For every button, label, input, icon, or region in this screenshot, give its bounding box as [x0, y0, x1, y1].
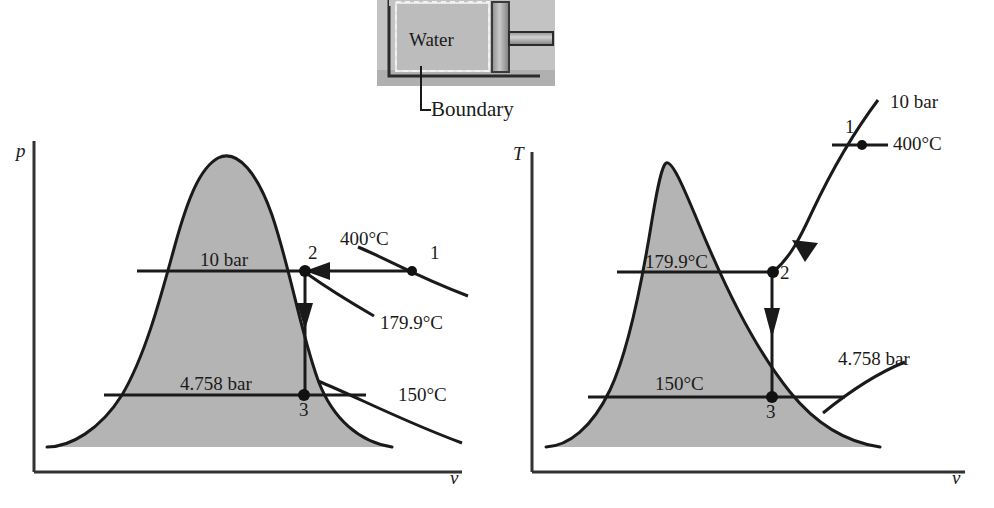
Tv-state-point-1	[857, 140, 867, 150]
Tv-isobar-10bar	[773, 100, 878, 272]
Tv-state-label-1: 1	[845, 117, 855, 136]
thermodynamic-process-figure: Water Boundary p	[0, 0, 994, 508]
Tv-annotation-isotherm-150C: 150°C	[655, 374, 704, 393]
Tv-vapor-dome-fill	[546, 163, 880, 447]
Tv-diagram	[0, 0, 994, 508]
Tv-x-axis-label: v	[952, 468, 960, 487]
Tv-state-label-3: 3	[766, 402, 776, 421]
Tv-annotation-temperature-400C: 400°C	[893, 134, 942, 153]
Tv-state-label-2: 2	[780, 263, 790, 282]
Tv-annotation-isotherm-179-9C: 179.9°C	[645, 252, 708, 271]
Tv-annotation-pressure-10bar: 10 bar	[890, 92, 938, 111]
Tv-y-axis-label: T	[513, 144, 524, 163]
Tv-isobar-4758bar	[823, 362, 905, 413]
Tv-process-1-2	[792, 240, 818, 262]
Tv-annotation-pressure-4758bar: 4.758 bar	[838, 349, 910, 368]
Tv-state-point-2	[767, 266, 779, 278]
